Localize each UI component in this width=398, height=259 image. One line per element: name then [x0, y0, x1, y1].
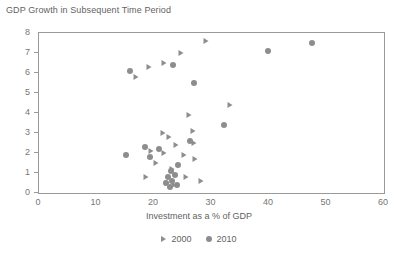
data-point-2010 — [174, 182, 180, 188]
x-tick-label: 50 — [311, 197, 341, 207]
data-point-2010 — [170, 62, 176, 68]
data-point-2000 — [192, 156, 197, 162]
legend-label-2010: 2010 — [217, 234, 237, 244]
data-point-2000 — [160, 130, 165, 136]
scatter-chart-figure: GDP Growth in Subsequent Time Period 012… — [0, 0, 398, 259]
data-point-2010 — [309, 40, 315, 46]
data-point-2010 — [147, 154, 153, 160]
x-tick-label: 10 — [81, 197, 111, 207]
data-point-2000 — [161, 60, 166, 66]
y-tick-label: 3 — [8, 127, 30, 137]
plot-area — [38, 32, 385, 194]
data-point-2010 — [167, 184, 173, 190]
data-point-2000 — [184, 174, 189, 180]
data-point-2000 — [147, 64, 152, 70]
x-tick-label: 40 — [253, 197, 283, 207]
data-point-2010 — [156, 146, 162, 152]
data-point-2000 — [191, 128, 196, 134]
data-point-2010 — [123, 152, 129, 158]
circle-icon — [206, 236, 212, 242]
data-point-2010 — [127, 68, 133, 74]
triangle-right-icon — [161, 236, 166, 242]
data-point-2000 — [182, 152, 187, 158]
y-tick-label: 0 — [8, 187, 30, 197]
data-point-2000 — [228, 102, 233, 108]
y-tick-label: 8 — [8, 27, 30, 37]
x-tick-label: 20 — [138, 197, 168, 207]
data-point-2000 — [153, 160, 158, 166]
y-tick-label: 5 — [8, 87, 30, 97]
legend-label-2000: 2000 — [171, 234, 191, 244]
data-point-2010 — [175, 162, 181, 168]
data-point-2000 — [179, 50, 184, 56]
data-point-2000 — [133, 74, 138, 80]
x-tick-label: 60 — [368, 197, 398, 207]
data-point-2010 — [221, 122, 227, 128]
data-point-2000 — [186, 112, 191, 118]
data-point-2010 — [191, 80, 197, 86]
x-tick-label: 30 — [196, 197, 226, 207]
data-point-2000 — [162, 150, 167, 156]
data-point-2010 — [187, 138, 193, 144]
x-axis-label: Investment as a % of GDP — [0, 211, 398, 221]
data-point-2000 — [199, 178, 204, 184]
x-tick-label: 0 — [23, 197, 53, 207]
y-tick-label: 7 — [8, 47, 30, 57]
y-tick-label: 6 — [8, 67, 30, 77]
y-tick-label: 4 — [8, 107, 30, 117]
y-tick-label: 1 — [8, 167, 30, 177]
chart-title: GDP Growth in Subsequent Time Period — [6, 5, 171, 15]
data-point-2000 — [143, 174, 148, 180]
data-point-2000 — [203, 38, 208, 44]
data-point-2000 — [166, 134, 171, 140]
legend-item-2000[interactable]: 2000 — [161, 234, 191, 244]
y-tick-label: 2 — [8, 147, 30, 157]
legend-item-2010[interactable]: 2010 — [206, 234, 237, 244]
chart-legend: 2000 2010 — [0, 234, 398, 244]
data-point-2010 — [265, 48, 271, 54]
data-point-2000 — [173, 142, 178, 148]
data-point-2010 — [142, 144, 148, 150]
